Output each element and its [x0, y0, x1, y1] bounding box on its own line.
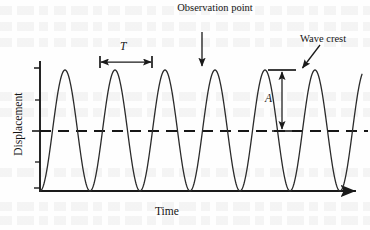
- wave-diagram-figure: Observation point Wave crest T A Time Di…: [0, 0, 370, 230]
- amplitude-marker-group: [268, 70, 296, 131]
- axes-group: [32, 62, 355, 191]
- x-axis-label: Time: [155, 205, 179, 217]
- period-marker-group: [100, 56, 152, 68]
- y-axis-tick-marks: [32, 68, 40, 188]
- y-axis-label: Displacement: [12, 76, 24, 172]
- observation-point-label: Observation point: [176, 2, 254, 13]
- wave-crest-label: Wave crest: [300, 33, 346, 44]
- amplitude-symbol-label: A: [265, 92, 272, 104]
- wave-crest-arrow: [303, 45, 321, 68]
- period-symbol-label: T: [120, 40, 126, 52]
